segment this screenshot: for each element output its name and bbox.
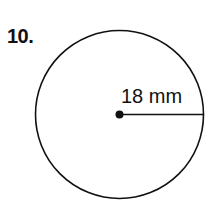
center-point — [116, 111, 124, 119]
circle-diagram: 18 mm — [0, 0, 221, 202]
radius-label: 18 mm — [121, 85, 182, 107]
